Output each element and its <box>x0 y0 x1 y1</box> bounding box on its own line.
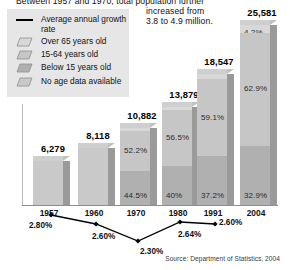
bar-side-3d <box>227 74 234 205</box>
bar-segment-15-64-years-old: 59.1% <box>197 79 227 156</box>
bar-segment-15-64-years-old: 62.9% <box>240 33 270 146</box>
bar-total-label: 6,279 <box>33 143 73 154</box>
bar-segment-no-age-data <box>78 148 108 205</box>
legend-label: Over 65 years old <box>33 37 137 47</box>
box-swatch-icon <box>16 77 33 87</box>
legend-label: Average annual growth rate <box>33 15 137 34</box>
bar-1957 <box>33 161 63 205</box>
segment-value-label: 59.1% <box>201 113 224 122</box>
segment-value-label: 32.9% <box>244 191 267 200</box>
bar-segment-no-age-data <box>33 161 63 205</box>
bar-1970: 3.3%52.2%44.5% <box>120 128 150 205</box>
bar-1991: 3.7%59.1%37.2% <box>197 74 227 205</box>
box-swatch-icon <box>16 50 33 60</box>
segment-value-label: 62.9% <box>244 84 267 93</box>
growth-rate-label-1970: 2.30% <box>140 247 163 256</box>
bar-segment-below-15-years-old: 44.5% <box>120 171 150 205</box>
bar-side-3d <box>270 25 277 205</box>
segment-value-label: 52.2% <box>124 146 147 155</box>
growth-rate-label-1957: 2.80% <box>29 221 52 230</box>
bar-1960 <box>78 148 108 205</box>
bar-side-3d <box>63 161 70 205</box>
growth-rate-label-1991: 2.60% <box>219 218 242 227</box>
line-marker-1960 <box>93 221 98 226</box>
bar-top-3d <box>78 143 108 148</box>
bar-side-3d <box>150 128 157 205</box>
segment-value-label: 56.5% <box>166 133 189 142</box>
source-note: Source: Department of Statistics, 2004 <box>165 255 280 262</box>
bar-segment-15-64-years-old: 56.5% <box>162 110 192 165</box>
y-axis-line <box>22 104 23 205</box>
box-swatch-icon <box>16 37 33 47</box>
bar-2004: 4.2%62.9%32.9% <box>240 25 270 205</box>
bar-1980: 3.5%56.5%40% <box>162 107 192 205</box>
bar-segment-below-15-years-old: 40% <box>162 166 192 205</box>
growth-rate-label-1960: 2.60% <box>92 232 115 241</box>
line-marker-1991 <box>212 221 217 226</box>
line-marker-1970 <box>135 238 140 243</box>
legend-item-below-15: Below 15 years old <box>16 63 137 73</box>
bar-top-3d <box>33 156 63 161</box>
growth-rate-label-1980: 2.64% <box>178 230 201 239</box>
box-swatch-icon <box>16 63 33 73</box>
bar-side-3d <box>108 148 115 205</box>
legend-item-growth-rate: Average annual growth rate <box>16 15 137 34</box>
bar-segment-below-15-years-old: 37.2% <box>197 156 227 205</box>
intro-text: Between 1957 and 1970, total population … <box>16 0 278 7</box>
legend-label: Below 15 years old <box>33 63 137 73</box>
legend-label: 15-64 years old <box>33 50 137 60</box>
bar-total-label: 10,882 <box>122 110 162 121</box>
segment-value-label: 44.5% <box>124 191 147 200</box>
bar-segment-15-64-years-old: 52.2% <box>120 131 150 171</box>
line-marker-1980 <box>177 219 182 224</box>
segment-value-label: 40% <box>166 191 182 200</box>
legend-label: No age data available <box>33 77 137 87</box>
bar-segment-over-65-years-old: 4.2% <box>240 25 270 33</box>
bar-total-label: 8,118 <box>78 130 118 141</box>
segment-value-label: 37.2% <box>201 191 224 200</box>
legend-item-no-age-data: No age data available <box>16 77 137 87</box>
legend-item-15-64: 15-64 years old <box>16 50 137 60</box>
legend: Average annual growth rate Over 65 years… <box>7 9 129 97</box>
bar-top-3d <box>240 20 270 25</box>
bar-total-label: 18,547 <box>199 56 239 67</box>
legend-item-over-65: Over 65 years old <box>16 37 137 47</box>
chart-figure: Between 1957 and 1970, total population … <box>0 0 290 270</box>
line-marker-1957 <box>48 212 53 217</box>
bar-total-label: 25,581 <box>242 7 282 18</box>
line-swatch-icon <box>16 15 33 24</box>
bar-top-3d <box>120 123 150 128</box>
bar-top-3d <box>162 102 192 107</box>
bar-segment-below-15-years-old: 32.9% <box>240 146 270 205</box>
bar-top-3d <box>197 69 227 74</box>
